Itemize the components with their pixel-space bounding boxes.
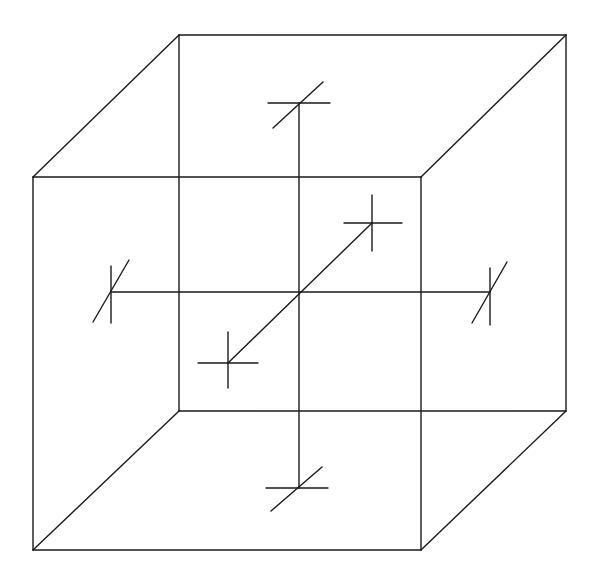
cross-marker-depth-front bbox=[198, 332, 258, 388]
cross-stroke-1 bbox=[271, 467, 322, 511]
depth-edge-bl bbox=[33, 411, 179, 550]
axis-end-markers bbox=[93, 82, 507, 511]
axes bbox=[111, 103, 490, 488]
axis-depth bbox=[228, 223, 372, 363]
depth-edge-br bbox=[421, 411, 566, 550]
depth-edge-tl bbox=[33, 35, 179, 177]
cross-marker-vertical-bottom bbox=[266, 467, 328, 511]
cube-axes-diagram bbox=[0, 0, 596, 577]
depth-edge-tr bbox=[421, 35, 566, 177]
cross-marker-horizontal-right bbox=[472, 262, 507, 325]
cross-stroke-1 bbox=[273, 82, 323, 128]
